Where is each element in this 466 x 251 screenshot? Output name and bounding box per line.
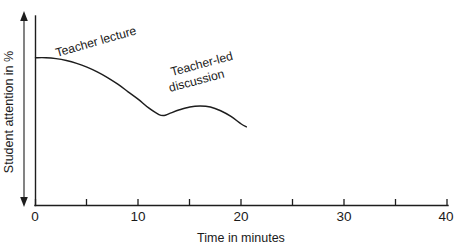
x-tick-label-10: 10 [130,209,145,224]
x-tick-label-20: 20 [233,209,248,224]
chart-figure: Student attention in % 0 10 20 30 [0,0,466,251]
x-tick-label-0: 0 [31,209,39,224]
attention-curve-chart: Student attention in % 0 10 20 30 [0,0,466,251]
x-tick-label-30: 30 [336,209,351,224]
x-tick-label-40: 40 [438,209,453,224]
y-axis-title: Student attention in % [2,51,16,173]
x-axis-title: Time in minutes [197,231,285,245]
